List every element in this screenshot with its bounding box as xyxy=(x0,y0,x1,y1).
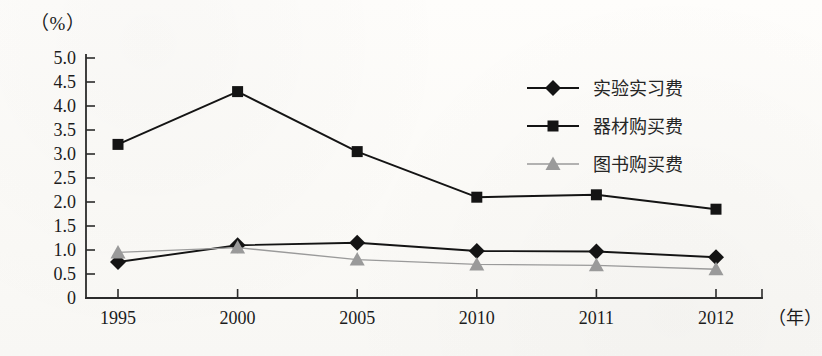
legend-label: 图书购买费 xyxy=(593,154,683,175)
chart-legend: 实验实习费器材购买费图书购买费 xyxy=(527,78,683,175)
legend-item: 实验实习费 xyxy=(527,78,683,99)
data-point-marker xyxy=(113,139,124,150)
series-line xyxy=(118,248,716,270)
data-point-marker xyxy=(589,258,604,272)
y-axis-unit-label: （%） xyxy=(30,8,85,35)
legend-item: 图书购买费 xyxy=(527,154,683,175)
y-axis-tick-label: 5.0 xyxy=(54,48,77,68)
data-series-group xyxy=(110,86,724,275)
y-axis-tick-label: 0.5 xyxy=(54,264,77,284)
x-axis-tick-label: 2010 xyxy=(459,308,495,328)
x-axis-tick-label: 1995 xyxy=(100,308,136,328)
x-axis-unit-label: （年） xyxy=(768,308,822,328)
y-axis-tick-label: 4.5 xyxy=(54,72,77,92)
x-axis-tick-label: 2011 xyxy=(579,308,614,328)
data-point-marker xyxy=(232,86,243,97)
y-axis-tick-label: 3.5 xyxy=(54,120,77,140)
y-axis: 00.51.01.52.02.53.03.54.04.55.0 xyxy=(54,48,96,308)
y-axis-tick-label: 1.5 xyxy=(54,216,77,236)
data-point-marker xyxy=(548,121,559,132)
series-line xyxy=(118,243,716,262)
chart-plot-area: 00.51.01.52.02.53.03.54.04.55.0 19952000… xyxy=(0,0,822,356)
data-point-marker xyxy=(711,204,722,215)
y-axis-tick-label: 0 xyxy=(67,288,76,308)
data-point-marker xyxy=(588,243,604,259)
legend-label: 实验实习费 xyxy=(593,78,683,99)
data-point-marker xyxy=(471,192,482,203)
data-point-marker xyxy=(591,189,602,200)
x-axis-tick-label: 2012 xyxy=(698,308,734,328)
data-point-marker xyxy=(352,146,363,157)
series-line xyxy=(118,92,716,210)
series-triangle xyxy=(111,240,724,275)
y-axis-tick-label: 3.0 xyxy=(54,144,77,164)
series-square xyxy=(113,86,722,215)
x-axis-tick-label: 2000 xyxy=(220,308,256,328)
data-point-marker xyxy=(545,80,561,96)
data-point-marker xyxy=(349,235,365,251)
y-axis-tick-label: 1.0 xyxy=(54,240,77,260)
x-axis-tick-label: 2005 xyxy=(339,308,375,328)
y-axis-tick-label: 2.5 xyxy=(54,168,77,188)
data-point-marker xyxy=(546,157,561,171)
series-diamond xyxy=(110,235,724,270)
y-axis-tick-label: 2.0 xyxy=(54,192,77,212)
legend-item: 器材购买费 xyxy=(527,116,683,137)
line-chart: （%） 00.51.01.52.02.53.03.54.04.55.0 1995… xyxy=(0,0,822,356)
y-axis-tick-label: 4.0 xyxy=(54,96,77,116)
legend-label: 器材购买费 xyxy=(593,116,683,137)
x-axis: 199520002005201020112012（年） xyxy=(86,289,822,328)
data-point-marker xyxy=(469,243,485,259)
